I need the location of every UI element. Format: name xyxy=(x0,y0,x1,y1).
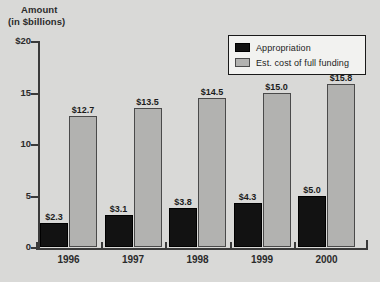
x-axis-line xyxy=(38,248,368,250)
bar-value-label: $15.0 xyxy=(259,82,295,92)
bar-value-label: $2.3 xyxy=(36,212,72,222)
y-axis-tick-label: 10 xyxy=(20,138,31,149)
bar-value-label: $4.3 xyxy=(230,192,266,202)
bar-value-label: $3.1 xyxy=(101,204,137,214)
y-axis-tick xyxy=(31,41,40,43)
bar-1998-appropriation xyxy=(169,208,197,247)
y-axis-tick xyxy=(31,93,40,95)
x-axis-tick xyxy=(101,242,103,250)
x-axis-tick-label-1997: 1997 xyxy=(105,254,162,265)
bar-value-label: $3.8 xyxy=(165,197,201,207)
bar-2000-appropriation xyxy=(298,196,326,248)
bar-value-label: $5.0 xyxy=(294,185,330,195)
legend-item-label: Est. cost of full funding xyxy=(256,58,349,68)
chart-axis-title-line2: (in $billions) xyxy=(8,16,65,28)
bar-value-label: $13.5 xyxy=(130,97,166,107)
bar-1997-full-funding xyxy=(134,108,162,247)
bar-1997-appropriation xyxy=(105,215,133,247)
legend-item-appropriation: Appropriation xyxy=(235,40,359,55)
legend-item-label: Appropriation xyxy=(256,43,311,53)
legend-item-fullfunding: Est. cost of full funding xyxy=(235,55,359,70)
bar-1996-full-funding xyxy=(69,116,97,247)
bar-1999-appropriation xyxy=(234,203,262,247)
bar-2000-full-funding xyxy=(327,84,355,247)
chart-axis-title-line1: Amount xyxy=(8,4,65,16)
y-axis-tick xyxy=(31,144,40,146)
x-axis-tick-label-2000: 2000 xyxy=(298,254,355,265)
y-axis-tick xyxy=(31,196,40,198)
bar-chart-figure: Amount (in $billions) 051015$20 19961997… xyxy=(0,0,380,282)
bar-1998-full-funding xyxy=(198,98,226,247)
y-axis-tick-label: 5 xyxy=(26,190,31,201)
legend-swatch-icon xyxy=(235,43,250,52)
y-axis-tick-label: $20 xyxy=(15,35,31,46)
bar-1996-appropriation xyxy=(40,223,68,247)
x-axis-end-tick xyxy=(366,240,368,249)
x-axis-tick xyxy=(294,242,296,250)
bar-value-label: $12.7 xyxy=(65,105,101,115)
bar-1999-full-funding xyxy=(263,93,291,248)
x-axis-tick xyxy=(230,242,232,250)
x-axis-tick xyxy=(165,242,167,250)
legend-swatch-icon xyxy=(235,58,250,67)
bar-value-label: $14.5 xyxy=(194,87,230,97)
x-axis-tick-label-1998: 1998 xyxy=(169,254,226,265)
y-axis-tick-label: 0 xyxy=(26,241,31,252)
x-axis-tick-label-1999: 1999 xyxy=(234,254,291,265)
y-axis-tick-label: 15 xyxy=(20,87,31,98)
chart-legend: AppropriationEst. cost of full funding xyxy=(228,35,366,75)
x-axis-tick-label-1996: 1996 xyxy=(40,254,97,265)
y-axis-tick-labels: 051015$20 xyxy=(0,42,31,250)
chart-axis-title: Amount (in $billions) xyxy=(8,4,65,27)
x-axis-tick xyxy=(36,242,38,250)
